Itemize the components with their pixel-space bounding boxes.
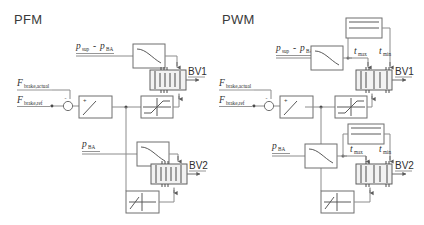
pwm-timing-block-lower: [348, 124, 384, 144]
svg-text:F: F: [16, 78, 23, 88]
svg-text:F: F: [16, 95, 23, 105]
svg-text:sup: sup: [282, 48, 290, 54]
block-diagram-svg: PFM p sup - p BA: [0, 0, 424, 225]
label-tmax-lower-pwm: t max: [350, 144, 363, 155]
pwm-summing-junction: -: [264, 95, 273, 111]
panel-title-pfm: PFM: [14, 12, 42, 27]
svg-text:-: -: [65, 95, 67, 101]
label-tmax-upper-pwm: t max: [354, 46, 367, 57]
pwm-valve-bv2: BV2: [356, 160, 414, 187]
svg-text:p: p: [271, 141, 277, 151]
svg-text:sup: sup: [82, 46, 90, 52]
svg-text:p: p: [299, 43, 305, 53]
pfm-saturation-block: [141, 96, 173, 118]
svg-text:BA: BA: [278, 146, 285, 152]
panel-pwm: PWM p sup - p BA: [218, 12, 414, 213]
svg-text:brake,actual: brake,actual: [24, 83, 50, 89]
svg-text:-: -: [93, 41, 96, 51]
panel-title-pwm: PWM: [222, 12, 255, 27]
svg-text:-: -: [266, 95, 268, 101]
svg-text:F: F: [218, 95, 225, 105]
diagram-canvas: PFM p sup - p BA: [0, 0, 424, 225]
svg-text:+: +: [284, 97, 288, 103]
label-pressure-difference-pwm: p sup - p BA: [275, 43, 314, 56]
pfm-summing-junction: -: [63, 95, 72, 111]
pwm-decay-block-top: [311, 46, 343, 70]
svg-text:max: max: [358, 51, 367, 57]
svg-text:BA: BA: [88, 144, 95, 150]
svg-text:p: p: [75, 41, 81, 51]
label-pba-pfm: p BA: [81, 139, 100, 152]
pwm-valve-label-bv1: BV1: [395, 66, 414, 77]
svg-text:brake,ref: brake,ref: [24, 100, 43, 106]
svg-text:brake,ref: brake,ref: [226, 100, 245, 106]
pwm-valve-label-bv2: BV2: [395, 160, 414, 171]
svg-text:min: min: [383, 51, 391, 57]
pwm-decay-block-lower: [305, 144, 337, 168]
pfm-valve-label-bv1: BV1: [188, 66, 207, 77]
pfm-relay-block: +: [79, 96, 112, 118]
label-pba-pwm: p BA: [271, 141, 290, 154]
pfm-valve-bv2: BV2: [151, 160, 208, 187]
svg-text:-: -: [293, 43, 296, 53]
pfm-valve-bv1: BV1: [150, 66, 207, 93]
pwm-timing-block-upper: [346, 18, 382, 38]
svg-text:+: +: [83, 97, 87, 103]
svg-text:brake,actual: brake,actual: [226, 83, 252, 89]
svg-text:min: min: [383, 149, 391, 155]
svg-text:max: max: [354, 149, 363, 155]
label-force-actual-pwm: F brake,actual: [218, 78, 254, 90]
svg-text:p: p: [99, 41, 105, 51]
svg-text:t: t: [350, 144, 353, 154]
label-force-ref-pwm: F brake,ref: [218, 95, 252, 107]
svg-text:p: p: [275, 43, 281, 53]
panel-pfm: PFM p sup - p BA: [14, 12, 208, 213]
svg-text:t: t: [379, 46, 382, 56]
pfm-decay-block-lower: [137, 142, 169, 166]
svg-text:t: t: [354, 46, 357, 56]
label-force-actual-pfm: F brake,actual: [16, 78, 52, 90]
pwm-saturation-block: [335, 96, 367, 118]
pfm-deadzone-block: [126, 191, 159, 213]
pwm-valve-bv1: BV1: [356, 66, 414, 93]
svg-text:p: p: [81, 139, 87, 149]
pwm-deadzone-block: [321, 191, 354, 213]
svg-text:BA: BA: [106, 46, 113, 52]
svg-text:F: F: [218, 78, 225, 88]
pfm-valve-label-bv2: BV2: [189, 160, 208, 171]
pfm-decay-block-top: [133, 44, 165, 68]
label-pressure-difference-pfm: p sup - p BA: [75, 41, 114, 54]
svg-text:t: t: [379, 144, 382, 154]
label-force-ref-pfm: F brake,ref: [16, 95, 50, 107]
